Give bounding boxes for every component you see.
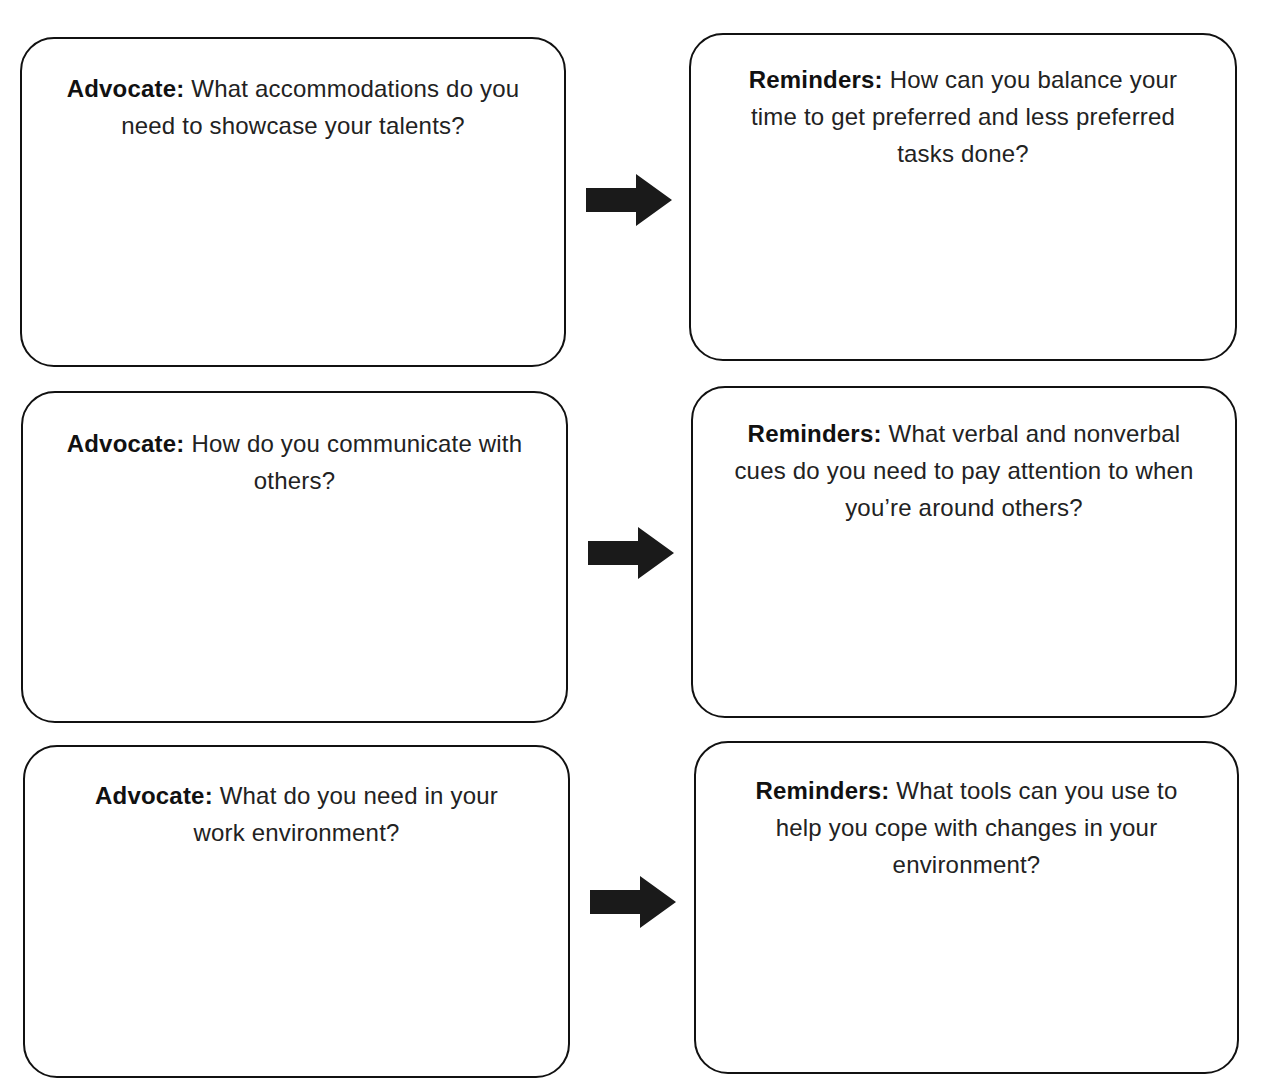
advocate-question-3: Advocate: What do you need in your work … bbox=[67, 777, 527, 851]
advocate-question-1: Advocate: What accommodations do you nee… bbox=[63, 70, 523, 144]
reminders-question-1: Reminders: How can you balance your time… bbox=[723, 61, 1203, 172]
reminders-question-3: Reminders: What tools can you use to hel… bbox=[732, 772, 1202, 883]
advocate-card-3: Advocate: What do you need in your work … bbox=[23, 745, 570, 1078]
reminders-card-2: Reminders: What verbal and nonverbal cue… bbox=[691, 386, 1237, 718]
reminders-card-1: Reminders: How can you balance your time… bbox=[689, 33, 1237, 361]
right-arrow-icon bbox=[588, 527, 674, 579]
advocate-label: Advocate: bbox=[67, 430, 185, 457]
reminders-question-2: Reminders: What verbal and nonverbal cue… bbox=[724, 415, 1204, 526]
reminders-label: Reminders: bbox=[748, 420, 882, 447]
advocate-card-1: Advocate: What accommodations do you nee… bbox=[20, 37, 566, 367]
advocate-label: Advocate: bbox=[67, 75, 185, 102]
advocate-card-2: Advocate: How do you communicate with ot… bbox=[21, 391, 568, 723]
advocate-label: Advocate: bbox=[95, 782, 213, 809]
reminders-card-3: Reminders: What tools can you use to hel… bbox=[694, 741, 1239, 1074]
advocate-question-2: Advocate: How do you communicate with ot… bbox=[65, 425, 525, 499]
reminders-label: Reminders: bbox=[749, 66, 883, 93]
right-arrow-icon bbox=[586, 174, 672, 226]
right-arrow-icon bbox=[590, 876, 676, 928]
reminders-label: Reminders: bbox=[755, 777, 889, 804]
